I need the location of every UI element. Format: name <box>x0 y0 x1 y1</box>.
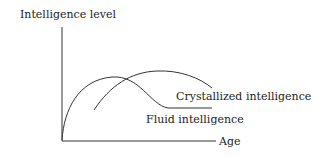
intelligence-age-diagram: Intelligence level Age Crystallized inte… <box>0 0 314 157</box>
x-axis-label: Age <box>218 135 241 148</box>
fluid-intelligence-curve <box>62 77 212 140</box>
fluid-intelligence-label: Fluid intelligence <box>146 113 244 126</box>
crystallized-intelligence-label: Crystallized intelligence <box>176 90 311 103</box>
y-axis-label: Intelligence level <box>20 8 116 21</box>
